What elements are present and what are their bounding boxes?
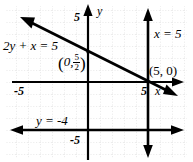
point-label-x-intercept: (5, 0) [149, 64, 177, 77]
equation-label-diagonal: 2y + x = 5 [3, 39, 58, 52]
point-x-value: 0, [64, 54, 74, 69]
equation-label-vertical: x = 5 [154, 27, 182, 40]
paren-close: ) [80, 54, 86, 73]
y-axis-label: y [97, 5, 102, 17]
graph-canvas [0, 0, 193, 162]
equation-label-horizontal: y = -4 [36, 114, 68, 127]
y-tick-minus-5: -5 [70, 134, 80, 146]
x-tick-5: 5 [141, 85, 147, 97]
y-intercept-marker [86, 50, 89, 53]
x-tick-minus-5: -5 [14, 85, 24, 97]
x-axis-label: x [155, 85, 160, 97]
y-tick-5: 5 [74, 11, 80, 23]
point-label-y-intercept: (0,52) [58, 53, 86, 72]
graph-figure: y x 5 -5 -5 5 2y + x = 5 x = 5 y = -4 (0… [0, 0, 193, 162]
